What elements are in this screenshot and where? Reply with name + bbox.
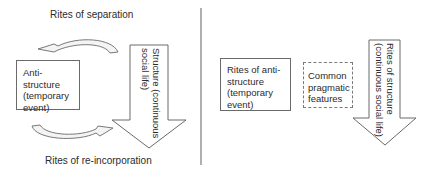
structure-arrow-label: Structure (continuous social life) xyxy=(140,48,162,138)
rites-of-separation-label: Rites of separation xyxy=(50,9,133,21)
rites-of-structure-line: Rites of structure xyxy=(385,43,396,115)
anti-structure-line: (temporary xyxy=(23,90,75,102)
common-pragmatic-line: features xyxy=(308,93,350,105)
structure-arrow-line: Structure (continuous xyxy=(151,48,162,138)
anti-structure-line: event) xyxy=(23,102,75,114)
separation-curved-arrow-icon xyxy=(38,40,118,53)
common-pragmatic-features-box: Common pragmatic features xyxy=(303,62,353,108)
anti-structure-box: Anti-structure (temporary event) xyxy=(16,60,80,110)
rites-of-structure-line: (continuous social life) xyxy=(374,43,385,137)
structure-arrow-line: social life) xyxy=(140,48,151,90)
rites-anti-structure-line: (temporary xyxy=(227,87,286,99)
rites-anti-structure-line: Rites of anti- xyxy=(227,64,286,76)
rites-of-reincorporation-label: Rites of re-incorporation xyxy=(45,155,152,167)
rites-of-anti-structure-box: Rites of anti- structure (temporary even… xyxy=(220,58,291,111)
rites-anti-structure-line: event) xyxy=(227,99,286,111)
rites-anti-structure-line: structure xyxy=(227,76,286,88)
anti-structure-line: Anti-structure xyxy=(23,67,75,90)
common-pragmatic-line: Common xyxy=(308,70,350,82)
rites-of-structure-arrow-label: Rites of structure (continuous social li… xyxy=(374,43,396,137)
reincorporation-curved-arrow-icon xyxy=(32,125,113,138)
common-pragmatic-line: pragmatic xyxy=(308,82,350,94)
